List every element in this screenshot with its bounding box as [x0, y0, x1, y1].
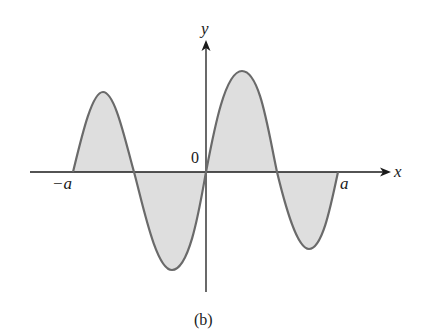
figure-caption: (b) — [194, 311, 213, 329]
origin-label: 0 — [191, 149, 199, 166]
right-bound-label: a — [340, 174, 349, 193]
left-bound-label: −a — [52, 174, 72, 193]
x-axis-label: x — [393, 162, 402, 181]
y-axis-label: y — [199, 19, 209, 38]
odd-function-area-figure: y x 0 −a a (b) — [0, 0, 426, 331]
